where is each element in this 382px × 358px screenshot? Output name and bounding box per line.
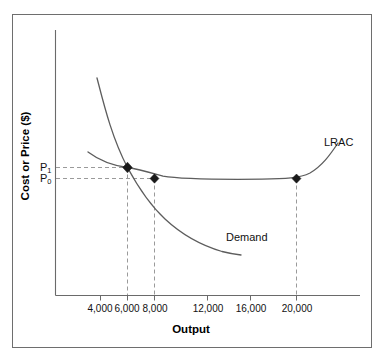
x-tick-label-12000: 12,000	[193, 303, 224, 314]
x-tick-label-20000: 20,000	[282, 303, 313, 314]
x-tick-label-6000: 6,000	[114, 303, 139, 314]
y-tick-label-p0: P0	[40, 172, 52, 184]
x-tick-label-4000: 4,000	[87, 303, 112, 314]
x-tick-label-16000: 16,000	[236, 303, 267, 314]
marker-20000-p0	[292, 174, 301, 183]
x-axis-title: Output	[0, 323, 382, 335]
lrac-curve-label: LRAC	[324, 136, 353, 148]
plot-area	[0, 0, 382, 358]
demand-curve-label: Demand	[226, 231, 268, 243]
p0-subscript: 0	[47, 177, 51, 186]
lrac-curve	[88, 143, 338, 179]
x-tick-label-8000: 8,000	[142, 303, 167, 314]
chart-figure: 4,000 6,000 8,000 12,000 16,000 20,000 P…	[0, 0, 382, 358]
y-axis-title: Cost or Price ($)	[19, 71, 31, 241]
marker-6000-p1	[123, 162, 133, 173]
